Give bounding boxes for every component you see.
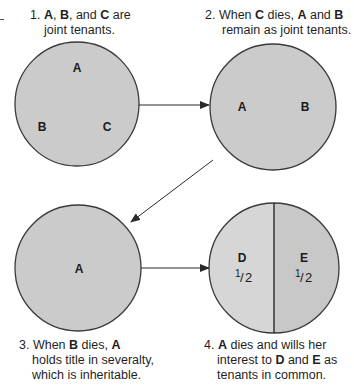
svg-text:/: / bbox=[240, 270, 244, 285]
owner-label-b: B bbox=[38, 120, 47, 134]
stage-4-circle: D E 1 / 2 1 / 2 bbox=[209, 203, 339, 333]
owner-label-d: D bbox=[238, 251, 247, 265]
share-e-half bbox=[274, 203, 339, 333]
owner-label-a: A bbox=[238, 100, 247, 114]
owner-label-e: E bbox=[300, 251, 308, 265]
svg-text:2: 2 bbox=[305, 270, 312, 285]
stage-1-circle: A B C bbox=[15, 42, 139, 166]
owner-label-a: A bbox=[75, 262, 84, 276]
owner-label-a: A bbox=[73, 61, 82, 75]
share-d-half bbox=[209, 203, 274, 333]
svg-text:2: 2 bbox=[245, 270, 252, 285]
svg-text:/: / bbox=[300, 270, 304, 285]
owner-label-c: C bbox=[103, 120, 112, 134]
diagram-canvas: A B C A B A D E 1 / 2 1 / 2 bbox=[0, 0, 354, 387]
stage-3-circle: A bbox=[15, 205, 141, 331]
owner-label-b: B bbox=[301, 100, 310, 114]
stage-2-circle: A B bbox=[210, 44, 336, 170]
arrow-stage-2-to-3 bbox=[131, 160, 213, 222]
